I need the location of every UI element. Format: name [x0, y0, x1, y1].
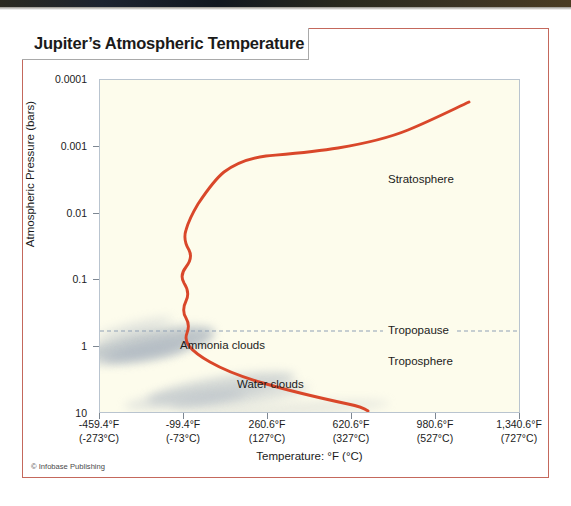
x-tick-label-c: (527°C) [417, 432, 454, 446]
y-tick-mark [93, 279, 99, 280]
y-tick-label: 1 [81, 340, 87, 352]
x-tick-label-f: 980.6°F [417, 418, 454, 432]
annotation-ammonia-clouds: Ammonia clouds [180, 339, 265, 351]
y-tick-label: 0.01 [67, 207, 87, 219]
annotation-troposphere: Troposphere [388, 355, 453, 367]
x-tick-label-c: (-73°C) [166, 432, 201, 446]
x-tick-label-f: 620.6°F [333, 418, 370, 432]
y-tick-mark [93, 213, 99, 214]
y-tick-label: 0.0001 [55, 73, 87, 85]
annotation-tropopause: Tropopause [384, 324, 453, 336]
figure-page: Jupiter’s Atmospheric Temperature St [0, 0, 571, 506]
x-tick-label-c: (-273°C) [79, 432, 119, 446]
x-tick-label-f: -99.4°F [166, 418, 201, 432]
chart-plot-area: Stratosphere Tropopause Troposphere Ammo… [99, 79, 520, 413]
top-edge-shadow [0, 7, 571, 10]
y-tick-mark [93, 346, 99, 347]
x-tick-label: 1,340.6°F (727°C) [496, 418, 542, 445]
x-tick-label: -99.4°F (-73°C) [166, 418, 201, 445]
x-tick-label-c: (127°C) [249, 432, 286, 446]
x-tick-label-c: (327°C) [333, 432, 370, 446]
top-edge-strip [0, 0, 571, 7]
credit-line: © Infobase Publishing [31, 462, 105, 471]
y-tick-mark [93, 146, 99, 147]
chart-plot-inner: Stratosphere Tropopause Troposphere Ammo… [100, 80, 519, 412]
x-tick-label-f: -459.4°F [79, 418, 119, 432]
y-tick-label: 0.001 [61, 140, 87, 152]
x-tick-label: 980.6°F (527°C) [417, 418, 454, 445]
y-axis-title: Atmospheric Pressure (bars) [24, 84, 36, 264]
x-tick-label-c: (727°C) [496, 432, 542, 446]
y-tick-label: 0.1 [72, 273, 87, 285]
title-box: Jupiter’s Atmospheric Temperature [22, 28, 309, 60]
temperature-profile-curve [100, 80, 519, 412]
y-axis: 0.0001 0.001 0.01 0.1 1 10 [30, 79, 94, 413]
x-axis-title: Temperature: °F (°C) [99, 450, 520, 462]
annotation-stratosphere: Stratosphere [388, 173, 454, 185]
x-tick-label-f: 1,340.6°F [496, 418, 542, 432]
annotation-water-clouds: Water clouds [237, 378, 304, 390]
x-tick-label: 620.6°F (327°C) [333, 418, 370, 445]
page-title: Jupiter’s Atmospheric Temperature [34, 34, 304, 53]
x-tick-label: -459.4°F (-273°C) [79, 418, 119, 445]
x-tick-label-f: 260.6°F [249, 418, 286, 432]
x-tick-label: 260.6°F (127°C) [249, 418, 286, 445]
